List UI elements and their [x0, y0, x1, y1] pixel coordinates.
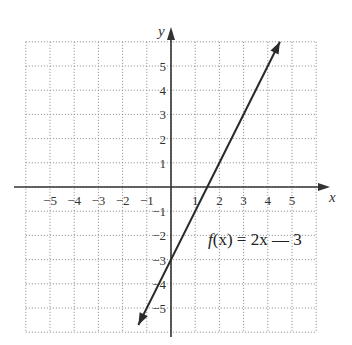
y-axis-arrow-icon — [167, 27, 175, 40]
line-arrow-up-icon — [271, 42, 280, 55]
axes — [14, 27, 330, 337]
x-axis-label: x — [328, 189, 336, 205]
equation-label: f(x) = 2x — 3 — [208, 230, 302, 249]
x-tick-label: −3 — [91, 193, 105, 208]
x-tick-label: −4 — [67, 193, 81, 208]
x-tick-label: 4 — [265, 193, 272, 208]
y-tick-label: −1 — [152, 204, 166, 219]
y-tick-label: −2 — [152, 228, 166, 243]
function-graph: −5−4−3−2−11234554321−1−2−3−4−5 x y f(x) … — [0, 0, 352, 345]
y-tick-label: 2 — [160, 132, 167, 147]
y-axis-label: y — [156, 23, 165, 39]
y-tick-label: −3 — [152, 253, 166, 268]
y-tick-label: 3 — [160, 107, 167, 122]
y-tick-label: −5 — [152, 301, 166, 316]
y-tick-label: 5 — [160, 59, 167, 74]
x-tick-label: −2 — [116, 193, 130, 208]
x-tick-label: 5 — [289, 193, 296, 208]
y-tick-label: 1 — [160, 156, 167, 171]
x-tick-label: 2 — [216, 193, 223, 208]
x-tick-label: −5 — [43, 193, 57, 208]
x-tick-label: 3 — [240, 193, 247, 208]
y-tick-label: 4 — [160, 83, 167, 98]
